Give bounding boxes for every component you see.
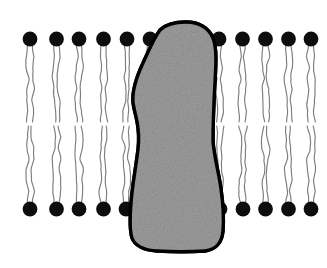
phospholipid-head [72,202,87,217]
phospholipid-head [304,202,319,217]
phospholipid-head [236,202,251,217]
phospholipid-head [281,32,296,47]
phospholipid-head [258,32,273,47]
phospholipid-head [120,32,135,47]
bilayer-svg-canvas [0,0,327,268]
phospholipid-head [23,32,38,47]
phospholipid-head [304,32,319,47]
phospholipid-head [49,32,64,47]
phospholipid-head [72,32,87,47]
membrane-diagram [0,0,327,268]
phospholipid-head [281,202,296,217]
phospholipid-head [258,202,273,217]
phospholipid-head [96,32,111,47]
phospholipid-head [235,32,250,47]
phospholipid-head [49,202,64,217]
phospholipid-head [23,202,38,217]
phospholipid-head [96,202,111,217]
